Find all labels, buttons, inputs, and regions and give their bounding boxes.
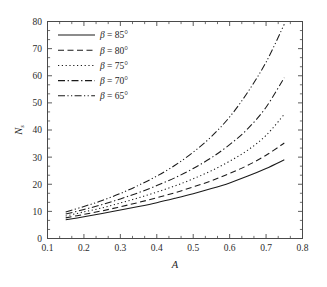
x-tick-label: 0.1 <box>42 243 54 253</box>
y-axis-title-text: Ns <box>13 125 25 136</box>
x-tick-label: 0.6 <box>224 243 236 253</box>
y-tick-label: 10 <box>33 207 43 217</box>
y-tick-label: 20 <box>33 180 43 190</box>
x-tick-label: 0.4 <box>151 243 163 253</box>
data-curves <box>66 24 285 220</box>
legend-label-beta-70: β = 70° <box>99 76 128 86</box>
curve-beta-65 <box>66 24 285 212</box>
x-tick-label: 0.2 <box>78 243 90 253</box>
figure-container: 0.10.20.30.40.50.60.70.8 010203040506070… <box>0 0 327 287</box>
y-tick-label: 70 <box>33 44 43 54</box>
legend-label-beta-80: β = 80° <box>99 46 128 56</box>
curve-beta-80 <box>66 143 285 218</box>
legend-label-beta-65: β = 65° <box>99 91 128 101</box>
y-tick-label: 30 <box>33 153 43 163</box>
legend-label-beta-85: β = 85° <box>99 30 128 40</box>
y-tick-label: 50 <box>33 98 43 108</box>
y-tick-label: 80 <box>33 17 43 27</box>
x-tick-label: 0.5 <box>187 243 199 253</box>
y-axis-title: Ns <box>13 125 25 136</box>
x-tick-label: 0.3 <box>114 243 126 253</box>
legend-label-beta-75: β = 75° <box>99 61 128 71</box>
y-axis-tick-labels: 01020304050607080 <box>33 17 43 244</box>
curve-beta-85 <box>66 160 285 220</box>
line-chart: 0.10.20.30.40.50.60.70.8 010203040506070… <box>0 0 327 287</box>
y-tick-label: 60 <box>33 71 43 81</box>
y-tick-label: 0 <box>37 234 42 244</box>
x-axis-title-text: A <box>171 259 179 270</box>
curve-beta-70 <box>66 78 285 214</box>
x-tick-label: 0.8 <box>297 243 309 253</box>
chart-legend: β = 85°β = 80°β = 75°β = 70°β = 65° <box>58 30 128 101</box>
x-tick-label: 0.7 <box>260 243 272 253</box>
x-axis-tick-labels: 0.10.20.30.40.50.60.70.8 <box>42 243 309 253</box>
y-tick-label: 40 <box>33 125 43 135</box>
x-axis-title: A <box>171 259 179 270</box>
